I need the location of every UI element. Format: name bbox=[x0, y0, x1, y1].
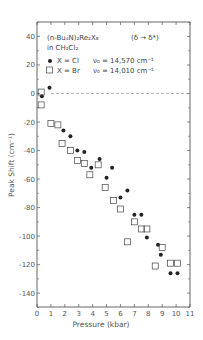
br-data-point bbox=[38, 89, 44, 95]
cl-data-point bbox=[75, 149, 79, 153]
x-tick-label: 5 bbox=[104, 310, 108, 318]
br-data-point bbox=[38, 102, 44, 108]
br-data-point bbox=[87, 172, 93, 178]
x-tick-label: 6 bbox=[118, 310, 123, 318]
cl-data-point bbox=[110, 166, 114, 170]
cl-data-point bbox=[125, 188, 129, 192]
br-data-point bbox=[48, 120, 54, 126]
legend-transition: (δ → δ*) bbox=[131, 34, 159, 42]
br-data-point bbox=[59, 140, 65, 146]
cl-data-point bbox=[118, 196, 122, 200]
y-tick-label: -80 bbox=[24, 204, 35, 212]
br-data-point bbox=[159, 245, 165, 251]
x-tick-label: 3 bbox=[76, 310, 80, 318]
cl-data-point bbox=[132, 213, 136, 217]
x-tick-label: 4 bbox=[90, 310, 95, 318]
legend-cl-nu: ν₀ = 14,570 cm⁻¹ bbox=[93, 57, 154, 65]
cl-data-point bbox=[98, 157, 102, 161]
y-tick-label: -60 bbox=[24, 176, 35, 184]
x-tick-label: 10 bbox=[172, 310, 181, 318]
x-tick-label: 8 bbox=[146, 310, 150, 318]
legend-br-nu: ν₀ = 14,010 cm⁻¹ bbox=[93, 67, 154, 75]
peak-shift-chart: 40200-20-40-60-80-100-120-14001234567891… bbox=[0, 0, 203, 340]
x-tick-label: 0 bbox=[35, 310, 39, 318]
legend-br-marker-icon bbox=[47, 67, 53, 73]
y-tick-label: 40 bbox=[26, 33, 35, 41]
y-axis-title: Peak Shift (cm⁻¹) bbox=[7, 133, 16, 197]
y-tick-label: 0 bbox=[31, 90, 35, 98]
cl-data-point bbox=[159, 253, 163, 257]
cl-data-point bbox=[82, 150, 86, 154]
y-tick-label: -120 bbox=[19, 261, 35, 269]
data-points bbox=[38, 86, 180, 275]
x-tick-label: 2 bbox=[63, 310, 67, 318]
br-data-point bbox=[55, 122, 61, 128]
br-data-point bbox=[124, 239, 130, 245]
x-tick-label: 9 bbox=[160, 310, 164, 318]
legend-cl-marker-icon bbox=[48, 59, 52, 63]
cl-data-point bbox=[89, 166, 93, 170]
x-axis-title: Pressure (kbar) bbox=[72, 320, 129, 329]
cl-data-point bbox=[105, 176, 109, 180]
legend-cl-label: X = Cl bbox=[57, 57, 79, 65]
br-data-point bbox=[152, 263, 158, 269]
legend-solvent: in CH₂Cl₂ bbox=[47, 44, 78, 52]
cl-data-point bbox=[145, 236, 149, 240]
x-tick-label: 7 bbox=[132, 310, 136, 318]
br-data-point bbox=[74, 158, 80, 164]
br-data-point bbox=[102, 185, 108, 191]
legend: (n-Bu₄N)₂Re₂X₈ in CH₂Cl₂ (δ → δ*) X = Cl… bbox=[47, 34, 160, 75]
legend-br-label: X = Br bbox=[57, 67, 80, 75]
br-data-point bbox=[117, 206, 123, 212]
y-tick-label: -20 bbox=[24, 119, 35, 127]
br-data-point bbox=[131, 219, 137, 225]
cl-data-point bbox=[175, 271, 179, 275]
cl-data-point bbox=[169, 271, 173, 275]
br-data-point bbox=[95, 162, 101, 168]
br-data-point bbox=[67, 148, 73, 154]
cl-data-point bbox=[61, 129, 65, 133]
legend-compound: (n-Bu₄N)₂Re₂X₈ bbox=[47, 34, 99, 42]
br-data-point bbox=[144, 226, 150, 232]
x-tick-label: 1 bbox=[49, 310, 53, 318]
br-data-point bbox=[81, 160, 87, 166]
br-data-point bbox=[111, 197, 117, 203]
br-data-point bbox=[168, 260, 174, 266]
x-tick-label: 11 bbox=[186, 310, 195, 318]
y-tick-label: -40 bbox=[24, 147, 35, 155]
y-tick-label: 20 bbox=[26, 61, 35, 69]
br-data-point bbox=[174, 260, 180, 266]
br-data-point bbox=[138, 226, 144, 232]
y-tick-label: -100 bbox=[19, 233, 35, 241]
cl-data-point bbox=[68, 134, 72, 138]
y-tick-label: -140 bbox=[19, 290, 35, 298]
cl-data-point bbox=[48, 86, 52, 90]
cl-data-point bbox=[139, 213, 143, 217]
